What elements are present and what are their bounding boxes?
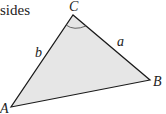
vertex-a-label: A [0, 101, 9, 114]
vertex-b-label: B [153, 74, 162, 89]
triangle-abc [11, 15, 150, 107]
side-a-label: a [117, 34, 124, 49]
vertex-c-label: C [69, 0, 79, 14]
side-b-label: b [35, 45, 42, 60]
triangle-diagram: C A B a b [0, 0, 166, 114]
